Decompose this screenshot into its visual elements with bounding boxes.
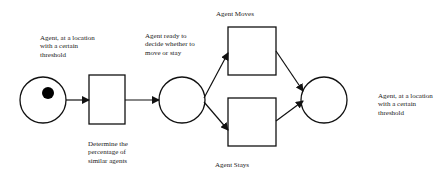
petri-net-diagram [0,0,448,175]
label-transition-moves: Agent Moves [216,10,254,18]
arc-moves-to-end [276,51,303,91]
arc-stays-to-end [276,101,303,121]
label-place-start: Agent, at a location with a certain thre… [40,34,95,59]
transition-determine [89,75,125,124]
label-place-decide: Agent ready to decide whether to move or… [145,32,195,57]
token-dot [42,87,54,99]
place-decide [159,77,205,123]
arc-decide-to-moves [204,53,228,98]
arc-decide-to-stays [204,102,228,130]
label-transition-stays: Agent Stays [215,161,249,169]
label-place-end: Agent, at a location with a certain thre… [378,92,433,117]
label-transition-determine: Determine the percentage of similar agen… [88,140,128,165]
transition-stays [228,98,276,146]
place-start [20,77,66,123]
transition-moves [228,27,276,75]
place-end [301,77,347,123]
